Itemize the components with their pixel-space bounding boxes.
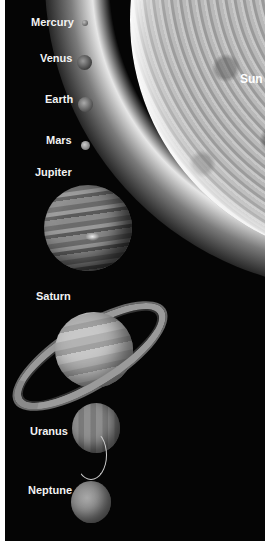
neptune-label: Neptune	[28, 484, 72, 496]
sun-label: Sun	[240, 72, 263, 86]
mars-planet	[81, 141, 90, 150]
uranus-ring	[75, 430, 107, 480]
mars-label: Mars	[46, 134, 72, 146]
earth-planet	[78, 97, 93, 112]
neptune-planet	[71, 481, 111, 523]
mercury-label: Mercury	[31, 16, 74, 28]
mercury-planet	[82, 20, 88, 26]
venus-planet	[77, 55, 92, 70]
saturn-label: Saturn	[36, 290, 71, 302]
solar-system-illustration: Sun Mercury Venus Earth Mars Jupiter Sat…	[5, 0, 265, 541]
earth-label: Earth	[45, 93, 73, 105]
jupiter-label: Jupiter	[35, 166, 72, 178]
jupiter-planet	[44, 185, 132, 271]
uranus-label: Uranus	[30, 425, 68, 437]
venus-label: Venus	[40, 52, 72, 64]
